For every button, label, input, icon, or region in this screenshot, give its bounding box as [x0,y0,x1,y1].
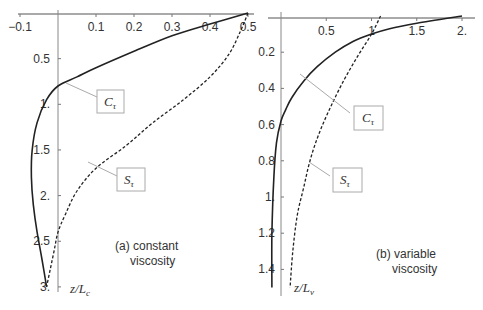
leader-c-tau-a [66,83,97,97]
annotation-b-line2: viscosity [392,262,437,276]
x-tick-label: 0.1 [88,20,105,34]
x-tick-label: 2. [457,24,467,38]
x-tick-label: 0.3 [164,20,181,34]
panel-b: 0.511.52.0.20.40.60.81.1.21.4 Cτ Sτ (b) … [258,12,475,297]
y-tick-label: 0.4 [258,81,275,95]
y-tick-label: 0.2 [258,45,275,59]
y-tick-label: 0.5 [33,52,50,66]
chart-canvas: −0.10.10.20.30.40.50.51.1.52.2.53. Cτ Sτ… [0,0,483,310]
y-tick-label: 2.5 [33,234,50,248]
y-tick-label: 1.5 [33,143,50,157]
y-tick-label: 1.4 [258,262,275,276]
annotation-a-line2: viscosity [130,254,175,268]
x-tick-label: 1.5 [408,24,425,38]
y-tick-label: 0.8 [258,154,275,168]
x-tick-label: 0.5 [318,24,335,38]
curve-s-tau-b [290,16,381,288]
x-tick-label: −0.1 [8,20,32,34]
x-tick-label: 0.2 [126,20,143,34]
y-tick-label: 2. [40,189,50,203]
annotation-a-line1: (a) constant [115,239,179,253]
y-tick-label: 0.6 [258,118,275,132]
leader-s-tau-b [309,162,330,176]
leader-s-tau-a [88,162,117,176]
annotation-b-line1: (b) variable [376,247,436,261]
y-axis-label-b: z/Lv [293,280,314,297]
x-tick-label: 1 [368,24,375,38]
ticks-b: 0.511.52.0.20.40.60.81.1.21.4 [258,18,467,276]
panel-a: −0.10.10.20.30.40.50.51.1.52.2.53. Cτ Sτ… [8,10,257,298]
y-axis-label-a: z/Lc [69,281,90,298]
leader-c-tau-b [300,74,350,113]
